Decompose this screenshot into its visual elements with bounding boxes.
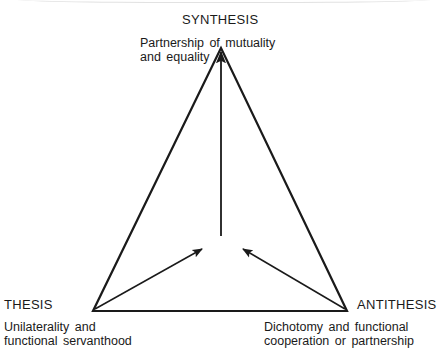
antithesis-description-line1: Dichotomy and functional: [264, 320, 408, 334]
thesis-description-line2: functional servanthood: [4, 334, 132, 348]
thesis-description-line1: Unilaterality and: [4, 320, 96, 334]
arrow-thesis-to-center: [95, 249, 202, 309]
triangle-outline: [93, 48, 347, 311]
synthesis-description-line1: Partnership of mutuality: [140, 36, 275, 50]
antithesis-heading: ANTITHESIS: [357, 297, 437, 312]
synthesis-heading: SYNTHESIS: [182, 12, 258, 27]
antithesis-description-line2: cooperation or partnership: [264, 334, 414, 348]
synthesis-description-line2: and equality: [140, 50, 209, 64]
arrow-antithesis-to-center: [243, 249, 345, 309]
thesis-heading: THESIS: [4, 297, 53, 312]
